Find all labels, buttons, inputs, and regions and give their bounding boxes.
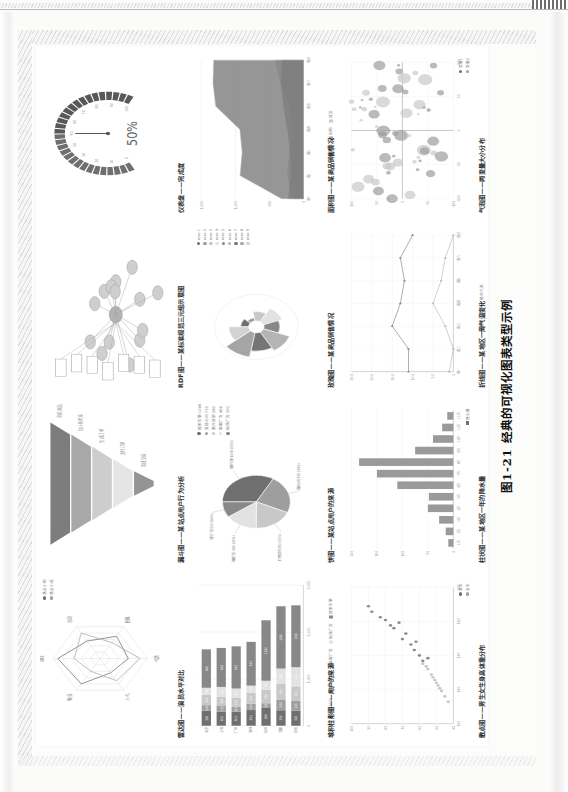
svg-text:901: 901 [234,665,238,670]
svg-text:邮件营销 580 (30%): 邮件营销 580 (30%) [276,533,282,561]
panel-title-funnel: 漏斗图——某站点用户行为分析 [176,476,185,563]
svg-text:11月: 11月 [457,424,461,430]
svg-text:0: 0 [457,129,461,131]
legend-label: 演员小花 [49,579,54,595]
chart-legend: 变量1变量2 [458,58,470,73]
svg-text:10月: 10月 [457,436,461,442]
legend-item: 女生 [465,583,470,596]
svg-text:12月: 12月 [457,413,461,419]
svg-text:1290: 1290 [264,647,268,654]
svg-text:周日: 周日 [305,58,311,63]
legend-swatch [234,242,238,246]
chart-legend: rose 1rose 2rose 3rose 4rose 5rose 6rose… [197,229,251,245]
svg-text:500: 500 [267,201,271,207]
svg-text:0: 0 [452,374,456,376]
svg-text:台词: 台词 [66,616,74,623]
legend-item: rose 6 [228,229,232,245]
legend-label: 降水量 [465,408,470,420]
svg-text:190: 190 [264,683,268,688]
svg-text:320: 320 [294,716,298,721]
legend-item: 视频广告 [328,623,333,644]
legend-swatch [205,432,209,436]
svg-text:3,000: 3,000 [306,581,310,590]
histogram-bar [439,516,453,524]
svg-text:30: 30 [82,152,86,157]
legend-label: 最低气温 [479,284,484,300]
panel-funnel: 浏览商品加入购物车生成订单支付订单完成交易漏斗图——某站点用户行为分析 [36,396,187,571]
svg-text:加入购物车: 加入购物车 [77,413,83,430]
legend-label: 搜索引擎 [328,598,333,614]
panel-canvas-line: 05.010.015.020.025.0周一周二周三周四周五周六周日最高气温最低… [341,227,472,390]
histogram-bar [449,539,454,547]
histogram-bar [429,493,453,501]
svg-text:上海: 上海 [218,727,224,733]
legend-swatch [212,432,216,436]
svg-text:101: 101 [234,707,238,712]
funnel-chart: 浏览商品加入购物车生成订单支付订单完成交易 [40,402,171,565]
figure-caption-area: 图1-21 经典的可视化图表类型示例 [498,46,520,746]
legend-label: rose 3 [209,229,213,240]
histogram-bar [377,470,453,478]
svg-text:220: 220 [204,697,208,702]
panel-canvas-radar: 演技台词形象气质人气敬业演员小明演员小花 [40,577,171,740]
svg-text:150: 150 [204,689,208,694]
svg-text:演技: 演技 [40,654,45,662]
panel-title-gauge: 仪表盘——完成度 [176,163,185,213]
legend-swatch [466,70,470,74]
svg-text:气质: 气质 [152,655,160,662]
panel-canvas-stacked-bar: 320120220150820北京302132182212832上海301101… [191,577,322,740]
svg-text:25.0: 25.0 [350,374,354,381]
svg-text:周一: 周一 [305,195,311,201]
svg-text:934: 934 [249,661,253,666]
svg-text:联盟广告 484 (25%): 联盟广告 484 (25%) [230,535,236,563]
legend-swatch [459,593,463,597]
panel-title-bubble: 气泡图——两变量大小分布 [477,138,486,213]
book-page-sheet: 演技台词形象气质人气敬业演员小明演员小花雷达图——演员水平对比浏览商品加入购物车… [14,26,542,768]
svg-text:50: 50 [457,94,461,98]
svg-text:生成订单: 生成订单 [98,429,104,443]
svg-text:其他: 其他 [292,727,298,733]
panel-canvas-gauge: 010203040506070809010050% [40,52,171,215]
svg-text:0: 0 [401,201,405,203]
svg-text:0: 0 [306,725,310,727]
svg-text:182: 182 [219,699,223,704]
legend-swatch [240,242,244,246]
panel-canvas-rose: rose 1rose 2rose 3rose 4rose 5rose 6rose… [191,227,322,390]
svg-text:3月: 3月 [457,518,461,522]
legend-item: rose 1 [197,229,201,245]
histogram-bar [428,504,453,512]
legend-label: 女生 [465,583,470,591]
scan-shadow-right [550,12,568,792]
histogram-bar [442,424,453,432]
panel-histogram: 0501001502001月2月3月4月5月6月7月8月9月10月11月12月降… [337,396,488,571]
svg-text:20: 20 [95,158,99,163]
legend-label: 视频广告 300 [225,406,230,430]
svg-text:1,000: 1,000 [306,675,310,684]
svg-text:230: 230 [279,702,283,707]
legend-label: rose 2 [203,229,207,240]
legend-item: 变量1 [458,58,463,73]
svg-text:1320: 1320 [294,633,298,640]
svg-text:敬业: 敬业 [66,694,74,701]
svg-text:210: 210 [294,703,298,708]
svg-text:深圳: 深圳 [248,727,254,733]
svg-text:广州: 广州 [233,727,239,733]
svg-text:20.0: 20.0 [370,374,374,381]
svg-text:100: 100 [401,551,405,557]
svg-text:330: 330 [279,715,283,720]
page-edge-hatching-top [0,3,568,8]
panel-pie: 搜索引擎 1048 (55%)直接访问 735 (38%)邮件营销 580 (3… [187,396,338,571]
legend-label: 视频广告 [328,623,333,639]
panel-canvas-scatter: 405060708090100150160170180190男生女生 [341,577,472,740]
svg-text:290: 290 [264,694,268,699]
panel-radar: 演技台词形象气质人气敬业演员小明演员小花雷达图——演员水平对比 [36,571,187,746]
svg-text:6月: 6月 [457,483,461,487]
svg-text:50: 50 [426,551,430,555]
svg-text:北京: 北京 [203,727,209,733]
svg-text:820: 820 [204,666,208,671]
svg-text:10: 10 [110,159,114,164]
legend-swatch [43,597,47,601]
svg-text:201: 201 [234,691,238,696]
svg-text:100: 100 [350,201,354,207]
svg-text:1,000: 1,000 [233,201,237,210]
